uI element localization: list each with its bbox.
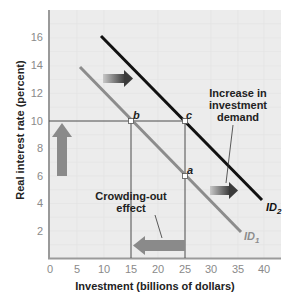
svg-text:effect: effect [116, 202, 146, 214]
svg-text:4: 4 [37, 197, 43, 209]
svg-text:Increase in: Increase in [209, 87, 267, 99]
point-b-label: b [133, 109, 140, 121]
svg-text:30: 30 [205, 263, 217, 275]
x-axis-title: Investment (billions of dollars) [75, 280, 235, 292]
svg-text:0: 0 [47, 263, 53, 275]
svg-text:14: 14 [31, 59, 43, 71]
annotation-increase-in-investment-demand: Increase in investment demand [209, 87, 267, 123]
y-axis-title: Real interest rate (percent) [14, 60, 26, 200]
point-a-label: a [187, 164, 193, 176]
svg-text:5: 5 [74, 263, 80, 275]
svg-text:16: 16 [31, 31, 43, 43]
svg-text:investment: investment [209, 99, 267, 111]
y-tick-labels: 16 14 12 10 8 6 4 2 [31, 31, 43, 237]
svg-text:10: 10 [98, 263, 110, 275]
x-tick-labels: 0 5 10 15 20 25 30 35 40 [47, 263, 270, 275]
svg-text:20: 20 [152, 263, 164, 275]
svg-text:Crowding-out: Crowding-out [95, 190, 167, 202]
svg-text:12: 12 [31, 87, 43, 99]
plot-area [49, 10, 281, 258]
svg-text:2: 2 [37, 225, 43, 237]
crowding-out-chart: 16 14 12 10 8 6 4 2 0 5 10 15 20 25 30 3… [0, 0, 300, 304]
svg-text:6: 6 [37, 170, 43, 182]
svg-text:15: 15 [125, 263, 137, 275]
svg-text:demand: demand [217, 111, 259, 123]
point-c-label: c [186, 109, 192, 121]
svg-text:40: 40 [258, 263, 270, 275]
svg-text:35: 35 [232, 263, 244, 275]
svg-text:25: 25 [179, 263, 191, 275]
svg-text:10: 10 [31, 115, 43, 127]
svg-text:8: 8 [37, 142, 43, 154]
